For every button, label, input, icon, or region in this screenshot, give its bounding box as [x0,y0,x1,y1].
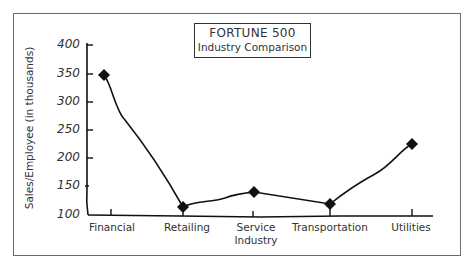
y-tick-label: 150 [40,178,80,192]
y-tick-label: 100 [40,207,80,221]
x-tick-label-service-industry: Service Industry [234,221,277,247]
x-tick-label-financial: Financial [89,221,135,234]
y-tick-label: 250 [40,122,80,136]
data-line [104,75,412,207]
chart-subtitle: Industry Comparison [195,41,310,54]
y-tick-label: 200 [40,150,80,164]
y-tick-label: 400 [40,37,80,51]
chart-title: FORTUNE 500 [195,26,310,41]
y-axis-label: Sales/Employee (in thousands) [23,47,35,209]
chart-title-box: FORTUNE 500 Industry Comparison [194,23,311,58]
y-tick-label: 350 [40,66,80,80]
x-tick-label-service-line2: Industry [234,234,277,247]
marker-utilities [406,138,418,150]
y-tick-label: 300 [40,94,80,108]
x-tick-label-retailing: Retailing [164,221,210,234]
marker-retailing [177,201,189,213]
y-axis [87,43,88,215]
x-tick-label-transportation: Transportation [292,221,368,234]
marker-financial [98,69,110,81]
x-axis [88,215,433,217]
x-tick-label-utilities: Utilities [391,221,431,234]
data-markers [98,69,418,213]
marker-service-industry [248,186,260,198]
x-tick-label-service-line1: Service [234,221,277,234]
